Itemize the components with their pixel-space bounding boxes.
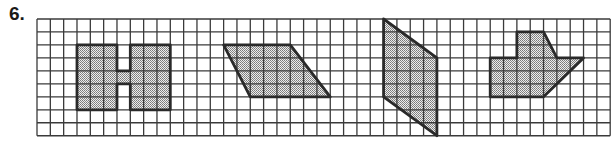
- arrow-house-shape-fill: [490, 32, 583, 97]
- h-shape-fill: [77, 45, 170, 110]
- graph-paper-grid: [0, 0, 614, 150]
